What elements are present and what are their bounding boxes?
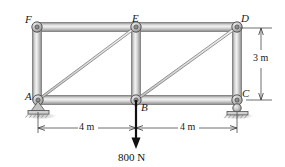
horizontal-dimension-lines [38, 112, 237, 133]
node-label-D: D [241, 13, 249, 24]
roller-support [221, 104, 255, 120]
node-label-A: A [25, 91, 32, 102]
member-A-E [34, 23, 140, 104]
node-label-E: E [132, 13, 139, 24]
dimension-label-span-right: 4 m [180, 122, 195, 132]
truss-members [33, 23, 242, 105]
node-label-F: F [25, 14, 32, 25]
member-E-B [132, 27, 141, 100]
member-B-D [132, 23, 241, 104]
member-D-C [233, 27, 242, 100]
member-A-B [38, 96, 136, 105]
dimension-label-span-left: 4 m [79, 122, 94, 132]
node-label-B: B [141, 102, 148, 113]
truss-diagram: F E D A B C 4 m 4 m 3 m 800 N [0, 0, 285, 167]
member-F-E [37, 23, 136, 32]
joint-F [32, 22, 42, 32]
load-arrow [132, 100, 141, 149]
member-F-A [33, 27, 42, 100]
dimension-label-height: 3 m [253, 53, 268, 63]
member-B-C [136, 96, 237, 105]
node-label-C: C [242, 88, 249, 99]
member-E-D [136, 23, 237, 32]
load-label: 800 N [118, 152, 145, 163]
truss-svg-canvas [0, 0, 285, 167]
